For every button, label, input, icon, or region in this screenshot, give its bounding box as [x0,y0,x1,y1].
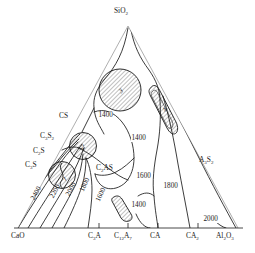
contour-1600-tail [86,158,92,228]
axis-label-ca: CA [150,231,160,240]
bottom-axis-ticks [99,223,198,228]
isotherm-label-1600-mid: 1600 [136,173,151,180]
axis-label-ca2: CA2 [186,231,199,240]
corner-label-al2o3: Al2O3 [216,231,234,240]
axis-label-c3a: C3A [88,231,101,240]
triangle-outline [18,26,238,228]
phase-label-a3s2: A3S2 [199,155,214,164]
isotherm-label-1400-low: 1400 [131,202,146,209]
corner-label-cao: CaO [11,231,25,240]
isotherm-label-1800-right: 1800 [163,183,178,190]
isotherm-label-1400-cs: 1400 [98,112,113,119]
contour-1400-low-top [138,193,154,196]
isotherm-label-1400-mid: 1400 [131,135,146,142]
phase-boundaries [18,28,241,228]
phase-label-c3s: C3S [25,160,37,169]
phase-label-c2as: C2AS [96,163,113,172]
contour-1400-centre [94,110,134,188]
boundary-central-vertical [153,100,160,228]
phase-label-c2s: C2S [33,146,45,155]
band-mullite-right [158,62,241,228]
apex-label-sio2: SiO2 [114,6,128,15]
ternary-phase-diagram: SiO2 CaO C3A C12A7 CA CA2 Al2O3 CS C3S2 … [0,0,255,253]
axis-label-c12a7: C12A7 [114,231,132,240]
hatched-region-c12a7 [112,196,132,221]
isotherm-label-2000-right: 2000 [203,216,218,223]
phase-label-c3s2: C3S2 [40,131,54,140]
phase-label-cs: CS [59,111,68,120]
contour-1400-low-bottom [136,214,150,228]
boundary-cs-field [82,108,94,132]
